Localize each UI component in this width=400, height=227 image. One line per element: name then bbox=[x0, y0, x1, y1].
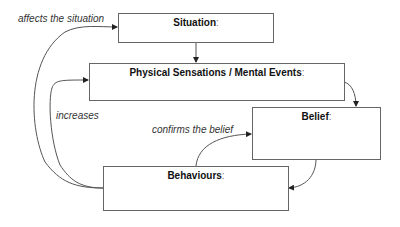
node-situation: Situation: bbox=[118, 13, 274, 43]
arrow-physical-to-belief bbox=[344, 82, 356, 106]
node-belief: Belief: bbox=[252, 107, 381, 160]
arrow-behaviours-to-situation bbox=[34, 26, 117, 188]
edge-label-increases: increases bbox=[56, 110, 99, 121]
node-physical-label: Physical Sensations / Mental Events bbox=[129, 67, 301, 78]
arrow-belief-to-behaviours bbox=[289, 159, 316, 188]
node-situation-label: Situation bbox=[173, 17, 216, 28]
node-belief-label: Belief bbox=[301, 111, 328, 122]
edge-label-affects-situation: affects the situation bbox=[18, 13, 104, 24]
arrow-behaviours-to-belief bbox=[196, 134, 251, 166]
node-behaviours-label: Behaviours bbox=[167, 170, 221, 181]
edge-label-confirms-belief: confirms the belief bbox=[152, 124, 233, 135]
node-behaviours: Behaviours: bbox=[103, 166, 289, 211]
node-physical-sensations: Physical Sensations / Mental Events: bbox=[89, 63, 345, 101]
